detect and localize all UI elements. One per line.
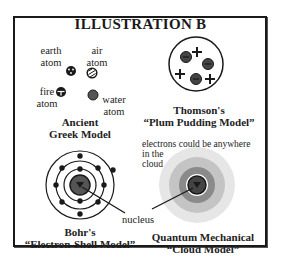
cloud-atom-icon [159, 147, 235, 223]
diagram-artwork [0, 0, 281, 276]
bohr-atom-icon [46, 151, 116, 219]
earth-atom-icon [66, 66, 76, 76]
plum-pudding-atom-icon [169, 37, 223, 91]
air-atom-icon [87, 68, 97, 78]
water-atom-icon [88, 90, 98, 100]
fire-atom-icon [56, 87, 66, 97]
